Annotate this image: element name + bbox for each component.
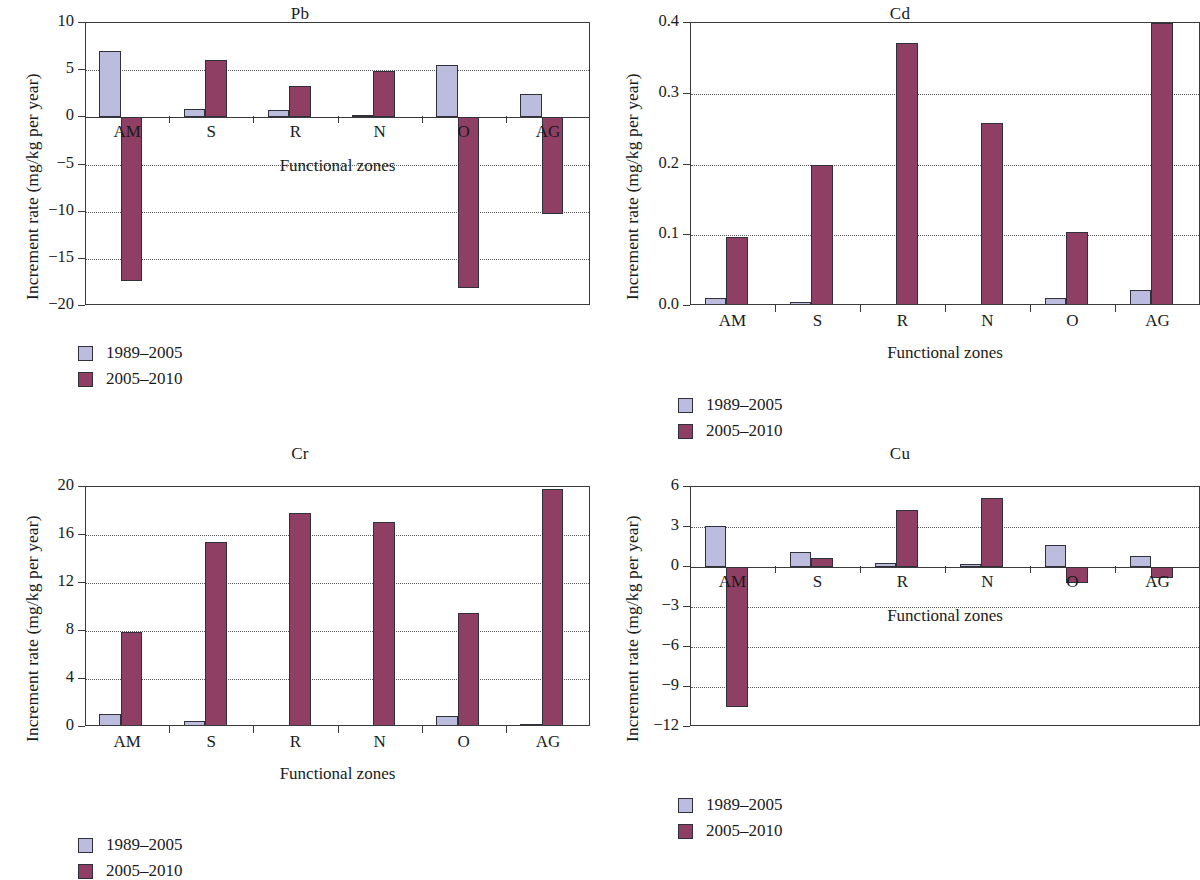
y-tick-mark	[683, 234, 690, 235]
y-tick-label: −5	[18, 153, 74, 173]
legend-item-2005-2010: 2005–2010	[678, 818, 783, 844]
bar-R-series2	[289, 513, 310, 726]
chart-title-cu: Cu	[600, 444, 1200, 464]
gridline	[86, 212, 589, 213]
x-category-label-N: N	[338, 732, 422, 752]
gridline	[86, 631, 589, 632]
bar-N-series1	[960, 564, 982, 567]
bar-O-series1	[1045, 298, 1067, 305]
bar-AM-series1	[99, 714, 120, 726]
y-tick-label: 8	[18, 619, 74, 639]
y-tick-mark	[683, 526, 690, 527]
x-category-label-S: S	[169, 122, 253, 142]
x-category-label-AG: AG	[506, 732, 590, 752]
bar-N-series2	[373, 71, 394, 117]
bar-O-series1	[1045, 545, 1067, 567]
x-category-label-O: O	[1030, 311, 1115, 331]
bar-O-series2	[458, 117, 479, 288]
y-tick-mark	[78, 582, 85, 583]
y-tick-mark	[683, 93, 690, 94]
y-tick-label: 0.2	[623, 153, 679, 173]
gridline	[86, 259, 589, 260]
legend-label-2005-2010: 2005–2010	[706, 821, 783, 841]
y-tick-label: 12	[18, 571, 74, 591]
legend-label-1989-2005: 1989–2005	[106, 835, 183, 855]
gridline	[86, 679, 589, 680]
legend-swatch-icon-1989-2005	[78, 346, 93, 361]
y-tick-label: 6	[623, 475, 679, 495]
bar-AG-series1	[1130, 556, 1152, 567]
legend-label-1989-2005: 1989–2005	[706, 395, 783, 415]
legend-swatch-icon-2005-2010	[678, 824, 693, 839]
bar-AM-series1	[705, 298, 727, 305]
chart-panel-pb: Pb Increment rate (mg/kg per year) 1989–…	[0, 0, 600, 440]
bar-R-series2	[896, 510, 918, 567]
y-tick-label: −20	[18, 294, 74, 314]
y-axis-label-cd: Increment rate (mg/kg per year)	[622, 73, 643, 300]
y-tick-mark	[78, 116, 85, 117]
y-tick-mark	[78, 630, 85, 631]
x-axis-label-cd: Functional zones	[690, 343, 1200, 363]
gridline	[691, 94, 1199, 95]
chart-panel-cr: Cr Increment rate (mg/kg per year) 1989–…	[0, 440, 600, 880]
bar-N-series2	[981, 123, 1003, 305]
x-category-label-N: N	[945, 572, 1030, 592]
bar-O-series1	[436, 716, 457, 726]
legend-label-1989-2005: 1989–2005	[106, 343, 183, 363]
x-category-label-O: O	[422, 122, 506, 142]
x-category-label-AG: AG	[1115, 572, 1200, 592]
x-category-label-AG: AG	[1115, 311, 1200, 331]
x-category-label-R: R	[860, 311, 945, 331]
legend-swatch-icon-2005-2010	[678, 424, 693, 439]
bar-S-series2	[811, 165, 833, 305]
bar-R-series2	[289, 86, 310, 118]
gridline	[691, 687, 1199, 688]
bar-AG-series1	[520, 724, 541, 726]
y-tick-mark	[683, 726, 690, 727]
bar-O-series2	[458, 613, 479, 726]
bar-R-series2	[896, 43, 918, 305]
x-category-label-R: R	[253, 732, 337, 752]
y-tick-mark	[78, 486, 85, 487]
y-tick-mark	[78, 305, 85, 306]
bar-R-series1	[268, 110, 289, 118]
y-tick-label: −9	[623, 675, 679, 695]
x-category-label-O: O	[1030, 572, 1115, 592]
legend-swatch-icon-2005-2010	[78, 372, 93, 387]
y-tick-mark	[78, 258, 85, 259]
y-tick-mark	[683, 646, 690, 647]
bar-AM-series1	[705, 526, 727, 567]
y-tick-label: 0.4	[623, 11, 679, 31]
y-tick-label: 0.3	[623, 82, 679, 102]
bar-S-series2	[811, 558, 833, 567]
gridline	[86, 70, 589, 71]
bar-S-series1	[184, 721, 205, 726]
y-tick-label: 0	[18, 715, 74, 735]
x-category-label-R: R	[253, 122, 337, 142]
x-category-label-O: O	[422, 732, 506, 752]
x-category-label-S: S	[775, 572, 860, 592]
bar-N-series2	[373, 522, 394, 726]
gridline	[691, 165, 1199, 166]
x-category-label-N: N	[338, 122, 422, 142]
plot-area-cr	[85, 486, 590, 726]
gridline	[86, 583, 589, 584]
x-axis-label-pb: Functional zones	[85, 156, 590, 176]
legend-label-1989-2005: 1989–2005	[706, 795, 783, 815]
figure-root: Pb Increment rate (mg/kg per year) 1989–…	[0, 0, 1200, 880]
gridline	[86, 535, 589, 536]
bar-AG-series2	[542, 489, 563, 726]
x-category-label-AM: AM	[85, 122, 169, 142]
y-tick-mark	[78, 22, 85, 23]
y-tick-label: 4	[18, 667, 74, 687]
legend-item-1989-2005: 1989–2005	[678, 792, 783, 818]
y-tick-mark	[683, 486, 690, 487]
y-tick-label: 10	[18, 11, 74, 31]
y-tick-label: 0.0	[623, 294, 679, 314]
y-tick-label: −12	[623, 715, 679, 735]
y-tick-mark	[683, 566, 690, 567]
legend-label-2005-2010: 2005–2010	[106, 861, 183, 880]
gridline	[691, 647, 1199, 648]
bar-S-series1	[790, 552, 812, 567]
y-tick-mark	[78, 211, 85, 212]
